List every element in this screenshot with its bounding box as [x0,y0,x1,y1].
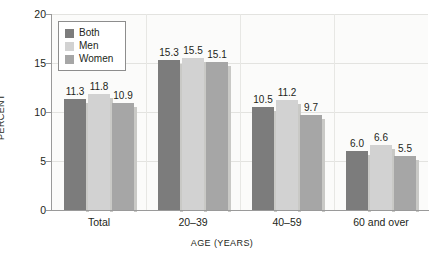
data-label-women-60-and-over: 5.5 [398,143,412,154]
data-label-both-60-and-over: 6.0 [350,138,364,149]
data-label-both-20-39: 15.3 [159,47,178,58]
bar-men-total [88,94,110,210]
bar-chart-figure: 05101520 PERCENT Total20–3940–5960 and o… [0,0,444,259]
y-tick-label-5: 5 [16,155,46,167]
bar-both-20-39 [158,60,180,210]
legend: Both Men Women [58,21,126,71]
y-tick-mark-15 [46,63,51,64]
bar-women-20-39 [206,62,228,210]
bar-women-40-59 [300,115,322,210]
y-tick-label-20: 20 [16,8,46,20]
data-label-women-40-59: 9.7 [304,102,318,113]
bar-women-total [112,103,134,210]
data-label-women-20-39: 15.1 [207,49,226,60]
legend-item-women: Women [65,53,119,65]
legend-swatch-men-icon [65,42,74,51]
y-tick-mark-5 [46,161,51,162]
y-tick-label-0: 0 [16,204,46,216]
bar-women-60-and-over [394,156,416,210]
legend-swatch-women-icon [65,55,74,64]
bar-shadow [228,66,231,212]
x-tick-label-40-59: 40–59 [272,216,301,228]
legend-label-women: Women [79,53,113,65]
data-label-men-total: 11.8 [90,81,109,92]
x-axis-title: AGE (YEARS) [0,238,444,248]
data-label-women-total: 10.9 [113,90,132,101]
x-tick-label-20-39: 20–39 [178,216,207,228]
y-tick-mark-0 [46,210,51,211]
y-axis-line [51,14,52,211]
y-tick-mark-10 [46,112,51,113]
legend-item-both: Both [65,27,119,39]
bar-both-60-and-over [346,151,368,210]
group-separator-3 [334,14,335,210]
data-label-both-40-59: 10.5 [253,94,272,105]
bar-both-40-59 [252,107,274,210]
x-tick-label-total: Total [88,216,110,228]
bar-shadow [322,119,325,212]
y-tick-label-10: 10 [16,106,46,118]
bar-shadow [134,107,137,212]
y-tick-label-15: 15 [16,57,46,69]
bar-both-total [64,99,86,210]
legend-item-men: Men [65,40,119,52]
group-separator-2 [240,14,241,210]
data-label-men-60-and-over: 6.6 [374,132,388,143]
legend-label-both: Both [79,27,100,39]
bar-men-40-59 [276,100,298,210]
y-tick-mark-20 [46,14,51,15]
data-label-both-total: 11.3 [66,86,85,97]
y-axis-title: PERCENT [0,94,6,140]
data-label-men-20-39: 15.5 [183,45,202,56]
x-tick-label-60-and-over: 60 and over [353,216,408,228]
legend-swatch-both-icon [65,29,74,38]
data-label-men-40-59: 11.2 [278,87,297,98]
group-separator-1 [146,14,147,210]
bar-men-20-39 [182,58,204,210]
x-axis-line [51,210,429,211]
bar-men-60-and-over [370,145,392,210]
legend-label-men: Men [79,40,98,52]
bar-shadow [416,160,419,212]
